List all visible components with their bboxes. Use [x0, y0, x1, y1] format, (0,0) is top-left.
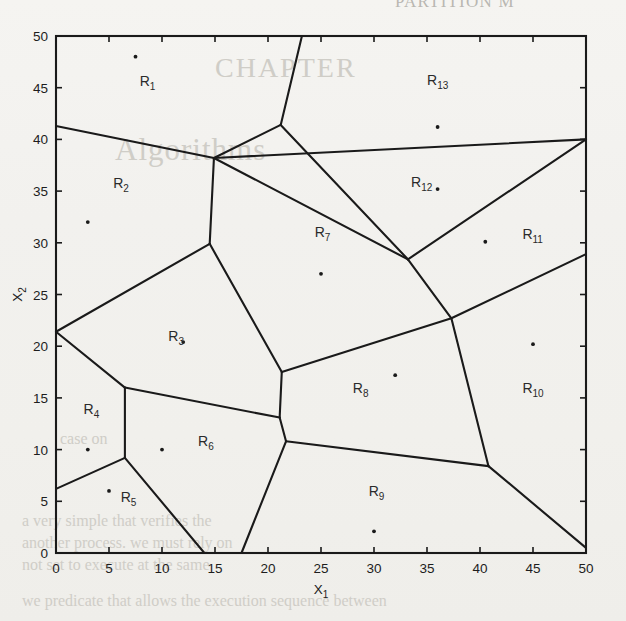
voronoi-edges: [56, 36, 586, 553]
voronoi-edge: [214, 158, 408, 259]
region-label: R7: [315, 224, 331, 243]
region-label: R2: [113, 175, 129, 194]
x-tick-label: 5: [105, 561, 113, 576]
region-label: R11: [522, 226, 543, 245]
voronoi-edge: [408, 259, 451, 318]
region-label-subscript: 3: [178, 336, 184, 347]
voronoi-edge: [282, 318, 452, 372]
region-label-subscript: 12: [421, 182, 433, 193]
axis-tick-labels: 0510152025303540455005101520253035404550: [33, 29, 594, 576]
voronoi-edge: [210, 244, 282, 372]
seed-point: [436, 187, 440, 191]
region-label-text: R11: [522, 226, 543, 245]
y-axis-label-subscript: 2: [17, 287, 28, 293]
region-label-text: R10: [522, 380, 544, 399]
voronoi-edge: [488, 466, 586, 548]
x-tick-label: 10: [154, 561, 169, 576]
region-label-subscript: 2: [123, 183, 129, 194]
seed-point: [483, 240, 487, 244]
region-label-text: R7: [315, 224, 331, 243]
region-label-text: R4: [84, 401, 100, 420]
region-label: R13: [427, 72, 449, 91]
y-tick-label: 20: [33, 339, 48, 354]
region-label-subscript: 10: [533, 388, 545, 399]
voronoi-edge: [451, 254, 586, 318]
y-axis-label-group: X2: [10, 287, 28, 302]
region-label-subscript: 6: [208, 441, 214, 452]
seed-points: [86, 55, 535, 533]
voronoi-edge: [56, 244, 210, 332]
region-label-subscript: 8: [363, 388, 369, 399]
region-label-text: R2: [113, 175, 129, 194]
region-label: R4: [84, 401, 100, 420]
x-tick-label: 0: [52, 561, 60, 576]
x-tick-label: 45: [525, 561, 540, 576]
region-label-subscript: 4: [94, 409, 100, 420]
region-label-subscript: 5: [131, 497, 137, 508]
region-labels: R1R2R3R4R5R6R7R8R9R10R11R12R13: [84, 72, 545, 509]
region-label: R12: [411, 174, 433, 193]
seed-point: [393, 373, 397, 377]
region-label-subscript: 1: [150, 81, 156, 92]
y-tick-label: 15: [33, 391, 48, 406]
voronoi-edge: [214, 139, 586, 158]
plot-box: [56, 36, 586, 553]
x-tick-label: 25: [313, 561, 328, 576]
region-label: R10: [522, 380, 544, 399]
y-tick-label: 45: [33, 81, 48, 96]
voronoi-edge: [56, 126, 214, 158]
voronoi-edge: [56, 332, 125, 388]
voronoi-plot-svg: 0510152025303540455005101520253035404550…: [0, 0, 626, 621]
x-tick-label: 40: [472, 561, 487, 576]
voronoi-edge: [56, 458, 125, 489]
seed-point: [372, 529, 376, 533]
region-label-text: R13: [427, 72, 449, 91]
region-label: R3: [168, 328, 184, 347]
voronoi-edge: [214, 125, 281, 158]
region-label-subscript: 13: [437, 80, 449, 91]
y-tick-label: 0: [40, 546, 48, 561]
region-label: R5: [121, 489, 137, 508]
voronoi-edge: [125, 458, 204, 553]
y-tick-label: 35: [33, 184, 48, 199]
seed-point: [531, 342, 535, 346]
region-label-text: R8: [353, 380, 369, 399]
y-axis-label: X2: [10, 287, 28, 302]
voronoi-edge: [242, 441, 287, 553]
x-tick-label: 50: [578, 561, 593, 576]
scanned-page: PARTITION M CHAPTER Algorithms case on a…: [0, 0, 626, 621]
y-tick-label: 30: [33, 236, 48, 251]
plot-frame: [56, 36, 586, 553]
seed-point: [86, 448, 90, 452]
y-tick-label: 40: [33, 132, 48, 147]
y-tick-label: 50: [33, 29, 48, 44]
voronoi-edge: [280, 372, 282, 417]
voronoi-edge: [286, 441, 488, 466]
voronoi-edge: [451, 318, 488, 466]
x-axis-label: X1: [314, 582, 329, 600]
seed-point: [436, 125, 440, 129]
seed-point: [134, 55, 138, 59]
x-axis-label-subscript: 1: [323, 589, 329, 600]
y-tick-label: 5: [40, 494, 48, 509]
region-label: R8: [353, 380, 369, 399]
region-label-subscript: 9: [379, 491, 385, 502]
y-tick-label: 25: [33, 288, 48, 303]
region-label-text: R6: [198, 433, 214, 452]
voronoi-edge: [281, 125, 408, 259]
region-label-subscript: 7: [325, 232, 331, 243]
axis-ticks: [56, 36, 586, 553]
voronoi-edge: [408, 139, 586, 259]
region-label: R1: [140, 73, 156, 92]
voronoi-edge: [210, 158, 214, 244]
region-label-text: R1: [140, 73, 156, 92]
voronoi-edge: [281, 36, 302, 125]
voronoi-partition-figure: 0510152025303540455005101520253035404550…: [0, 0, 626, 621]
seed-point: [160, 448, 164, 452]
region-label-text: R9: [369, 483, 385, 502]
x-tick-label: 15: [207, 561, 222, 576]
region-label-text: R12: [411, 174, 433, 193]
x-tick-label: 30: [366, 561, 381, 576]
region-label: R9: [369, 483, 385, 502]
voronoi-edge: [280, 418, 286, 442]
